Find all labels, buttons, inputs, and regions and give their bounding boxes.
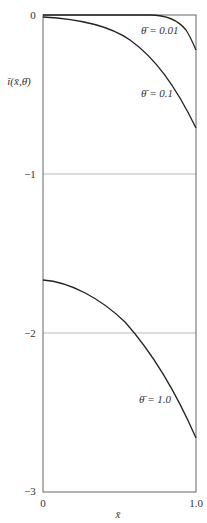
label-theta-0.1: θ̄ = 0.1	[141, 87, 173, 99]
x-tick-1: 1.0	[189, 497, 203, 509]
y-axis-label: ī(x̄,θ̄)	[7, 75, 31, 88]
label-theta-0.01: θ̄ = 0.01	[141, 24, 179, 36]
y-tick-minus-3: −3	[24, 485, 36, 497]
x-tick-0: 0	[40, 497, 46, 509]
y-tick-0: 0	[30, 9, 36, 21]
y-tick-minus-2: −2	[24, 327, 36, 339]
label-theta-1.0: θ̄ = 1.0	[139, 393, 172, 405]
x-axis-label: x̄	[115, 508, 121, 520]
y-tick-minus-1: −1	[24, 168, 36, 180]
curve-theta-1.0	[43, 280, 196, 438]
chart: 0 −1 −2 −3 0 1.0 x̄ ī(x̄,θ̄) θ̄ = 0.01 θ…	[0, 0, 207, 523]
